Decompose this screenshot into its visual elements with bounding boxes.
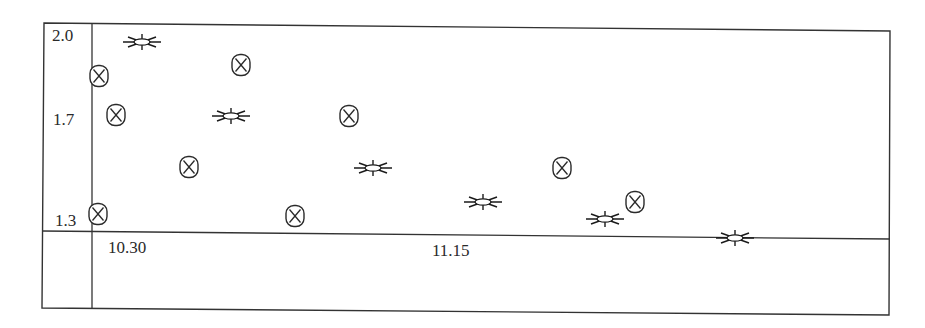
x-axis: [42, 231, 890, 239]
circled-cross-icon: [107, 105, 125, 126]
star-burst-icon: [586, 211, 624, 227]
circled-cross-icon: [340, 106, 358, 127]
data-markers: [89, 34, 754, 246]
chart-frame: [42, 23, 890, 315]
star-burst-icon: [354, 160, 392, 176]
x-tick-label-10-30: 10.30: [108, 238, 146, 257]
star-burst-icon: [464, 194, 502, 210]
y-tick-label-1-7: 1.7: [53, 110, 75, 129]
star-burst-icon: [212, 108, 250, 124]
circled-cross-icon: [89, 204, 107, 225]
y-tick-label-1-3: 1.3: [55, 211, 76, 230]
circled-cross-icon: [90, 66, 108, 87]
circled-cross-icon: [180, 157, 198, 178]
circled-cross-icon: [232, 55, 250, 76]
scatter-chart: 2.0 1.7 1.3 10.30 11.15: [0, 0, 925, 328]
star-burst-icon: [123, 34, 161, 50]
y-tick-label-2-0: 2.0: [52, 26, 73, 45]
circled-cross-icon: [286, 206, 304, 227]
circled-cross-icon: [626, 192, 644, 213]
circled-cross-icon: [553, 158, 571, 179]
x-tick-label-11-15: 11.15: [432, 241, 470, 260]
star-burst-icon: [716, 230, 754, 246]
